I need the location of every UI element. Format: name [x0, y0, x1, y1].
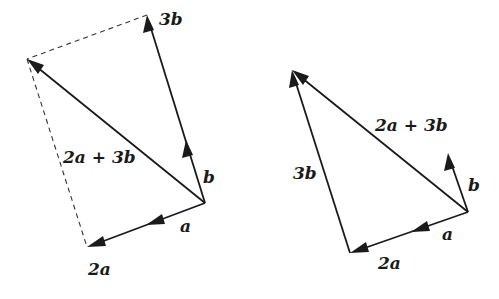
- label-3b: 3b: [159, 9, 183, 29]
- arrowhead-a: [146, 214, 165, 225]
- arrowhead-2a: [350, 242, 369, 253]
- label-2a: 2a: [377, 253, 401, 273]
- label-2a: 2a: [87, 259, 111, 279]
- label-b: b: [468, 175, 480, 195]
- arrowhead-b: [444, 153, 455, 171]
- label-b: b: [203, 167, 215, 187]
- arrowhead-b: [182, 140, 193, 158]
- label-a: a: [180, 216, 191, 236]
- arrowhead-3b: [143, 15, 154, 33]
- right-diagram: 2a + 3b 3b b a 2a: [289, 70, 480, 273]
- label-2a-plus-3b: 2a + 3b: [374, 115, 448, 135]
- dashed-line-top: [27, 15, 147, 59]
- vector-3b: [149, 22, 205, 203]
- vector-2a-plus-3b: [32, 63, 205, 203]
- arrowhead-a: [411, 221, 430, 232]
- label-2a-plus-3b: 2a + 3b: [62, 147, 136, 167]
- arrowhead-2a: [87, 236, 106, 247]
- vector-2a-plus-3b: [297, 74, 468, 212]
- label-3b: 3b: [293, 163, 317, 183]
- left-diagram: 3b 2a + 3b b a 2a: [27, 9, 215, 279]
- label-a: a: [442, 224, 453, 244]
- vector-addition-diagram: 3b 2a + 3b b a 2a 2a + 3b 3b b a 2a: [0, 0, 499, 299]
